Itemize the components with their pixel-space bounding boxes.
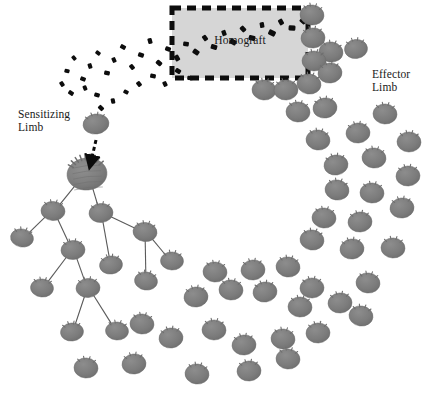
effector-cell-38	[158, 325, 184, 349]
antigen-particle-20	[119, 44, 126, 51]
effector-cell-17	[395, 164, 420, 187]
effector-cell-37	[129, 311, 155, 335]
antigen-particle-17	[147, 38, 153, 45]
clonal-cell-5	[132, 219, 158, 242]
clonal-cell-9	[75, 276, 100, 298]
effector-cell-4	[343, 37, 368, 60]
antigen-particle-2	[288, 25, 295, 31]
tree-link-9	[145, 241, 146, 272]
tree-link-2	[29, 217, 45, 232]
antigen-particle-32	[97, 104, 104, 111]
effector-cell-16	[361, 145, 387, 169]
effector-cell-29	[300, 276, 325, 298]
clonal-tree-cells	[9, 152, 184, 342]
tree-link-3	[58, 219, 69, 242]
clonal-cell-10	[133, 269, 159, 292]
effector-cell-47	[275, 346, 301, 370]
tree-link-5	[103, 222, 109, 257]
effector-cell-19	[359, 181, 384, 204]
effector-cell-30	[355, 270, 381, 294]
antigen-particle-21	[111, 57, 117, 64]
clonal-cell-7	[160, 250, 184, 271]
antigen-particle-24	[87, 63, 93, 69]
effector-cell-5	[251, 77, 277, 101]
diagram-svg	[0, 0, 428, 394]
antigen-particle-39	[187, 76, 193, 81]
effector-cell-41	[270, 326, 296, 350]
effector-cell-20	[389, 195, 415, 219]
effector-cell-10	[311, 95, 338, 120]
sensitizing-cell	[82, 111, 111, 136]
effector-cell-42	[305, 321, 330, 344]
clonal-cell-11	[59, 320, 84, 342]
effector-cell-45	[184, 361, 210, 385]
clonal-cell-12	[105, 319, 130, 341]
homograft-label: Homograft	[172, 34, 308, 47]
antigen-particle-26	[71, 55, 77, 61]
clonal-cell-3	[9, 225, 35, 248]
effector-cell-46	[236, 359, 261, 382]
effector-cell-11	[372, 102, 397, 125]
antigen-particle-34	[123, 89, 129, 95]
effector-cell-36	[348, 303, 375, 328]
tree-link-10	[75, 296, 84, 323]
sensitizing-limb-label: Sensitizing Limb	[18, 108, 70, 134]
tree-link-7	[48, 257, 66, 281]
clonal-cell-4	[60, 238, 85, 260]
effector-cell-34	[287, 295, 312, 318]
effector-cell-44	[121, 351, 147, 375]
effector-cell-21	[311, 205, 337, 229]
antigen-particle-29	[68, 90, 75, 97]
sensitizing-cell-group	[82, 111, 111, 136]
tree-link-11	[94, 295, 112, 323]
figure-canvas: Homograft Sensitizing Limb Effector Limb	[0, 0, 428, 394]
clonal-cell-2	[88, 201, 114, 224]
antigen-particle-19	[129, 64, 136, 71]
effector-cell-26	[202, 259, 228, 283]
effector-cell-22	[347, 210, 372, 233]
antigen-particle-25	[80, 76, 87, 82]
clonal-cell-6	[98, 253, 124, 276]
effector-cell-24	[339, 236, 365, 260]
effector-cell-23	[299, 227, 326, 252]
antigen-particle-35	[136, 81, 143, 88]
clonal-cell-8	[30, 276, 55, 298]
antigen-particle-18	[138, 52, 145, 58]
effector-cell-39	[202, 318, 227, 340]
effector-cell-28	[275, 254, 301, 278]
tree-link-4	[110, 217, 135, 229]
effector-cell-32	[218, 278, 243, 301]
effector-cell-9	[285, 100, 310, 123]
effector-cell-31	[183, 284, 209, 308]
tree-link-0	[60, 185, 76, 204]
effector-cell-43	[73, 356, 98, 379]
effector-cell-18	[324, 177, 351, 202]
effector-cell-15	[323, 152, 350, 177]
antigen-particle-36	[150, 73, 156, 78]
tree-link-8	[77, 258, 85, 279]
effector-cell-33	[252, 279, 279, 304]
effector-cell-40	[231, 332, 257, 356]
antigen-particle-27	[64, 68, 70, 73]
antigen-particle-22	[104, 70, 110, 75]
antigen-particle-30	[82, 85, 88, 91]
antigen-particle-16	[155, 59, 163, 67]
antigen-particle-31	[94, 92, 100, 98]
antigen-particle-33	[110, 98, 115, 104]
effector-cell-35	[327, 291, 352, 314]
tree-link-6	[152, 239, 165, 255]
effector-cell-6	[273, 78, 298, 101]
effector-cell-25	[380, 236, 405, 259]
antigen-particle-28	[59, 81, 65, 88]
effector-cell-27	[240, 257, 266, 281]
effector-cell-13	[345, 120, 371, 144]
effector-cell-14	[397, 130, 422, 152]
antigen-particle-37	[162, 81, 168, 88]
cropped-caption	[0, 384, 428, 394]
effector-cell-12	[305, 127, 331, 151]
antigen-particle-23	[95, 50, 101, 56]
activated-lymphocyte	[65, 152, 109, 192]
effector-limb-label: Effector Limb	[372, 68, 410, 94]
